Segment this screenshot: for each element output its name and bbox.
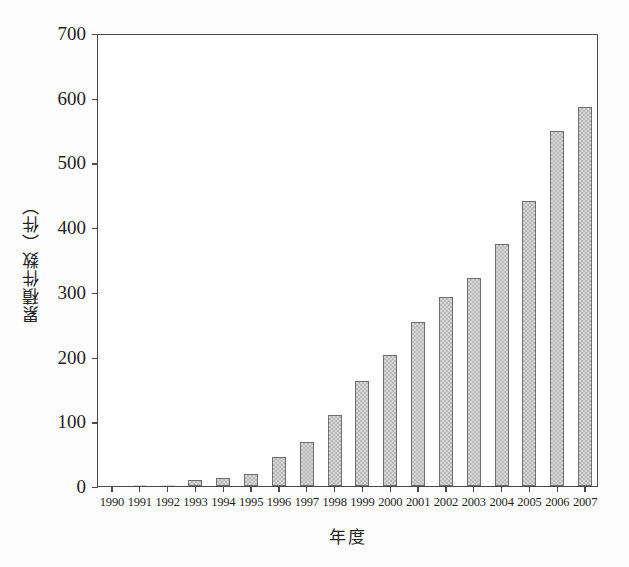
x-tick-label: 1995 [239,495,263,510]
x-tick-label: 1991 [128,495,152,510]
x-tick-mark [334,486,335,492]
x-tick-mark [278,486,279,492]
x-tick-label: 2006 [545,495,569,510]
bar-1997 [300,442,314,486]
y-tick-mark [92,293,98,294]
bar-1998 [328,415,342,486]
x-tick-mark [557,486,558,492]
x-tick-label: 1998 [322,495,346,510]
y-tick-label: 600 [58,88,87,110]
x-tick-mark [306,486,307,492]
y-tick-label: 0 [77,476,87,498]
bar-1999 [355,381,369,486]
bar-2007 [578,107,592,486]
bar-1994 [216,478,230,486]
x-tick-mark [167,486,168,492]
x-tick-mark [195,486,196,492]
y-tick-label: 500 [58,152,87,174]
x-tick-label: 2002 [434,495,458,510]
y-tick-label: 700 [58,23,87,45]
y-tick-mark [92,99,98,100]
bar-2004 [495,244,509,486]
bar-2006 [550,131,564,486]
x-tick-label: 2004 [489,495,513,510]
x-tick-label: 1994 [211,495,235,510]
bar-2005 [522,201,536,486]
x-tick-mark [250,486,251,492]
x-tick-mark [473,486,474,492]
plot-area: 0100200300400500600700 19901991199219931… [97,34,598,487]
y-tick-mark [92,422,98,423]
bar-2001 [411,322,425,486]
x-tick-mark [139,486,140,492]
bar-1996 [272,457,286,486]
x-tick-mark [445,486,446,492]
y-tick-label: 200 [58,347,87,369]
y-axis-title: 累積件数（件） [16,150,48,370]
y-tick-label: 400 [58,217,87,239]
x-tick-label: 1997 [295,495,319,510]
x-tick-label: 2000 [378,495,402,510]
x-tick-mark [362,486,363,492]
y-tick-label: 300 [58,282,87,304]
bar-2002 [439,297,453,486]
x-tick-mark [417,486,418,492]
y-tick-mark [92,34,98,35]
x-tick-mark [584,486,585,492]
x-tick-label: 1990 [100,495,124,510]
y-tick-mark [92,358,98,359]
bar-1995 [244,474,258,486]
x-tick-mark [390,486,391,492]
x-tick-mark [501,486,502,492]
y-tick-label: 100 [58,411,87,433]
y-tick-mark [92,228,98,229]
x-tick-label: 2005 [517,495,541,510]
x-tick-label: 2003 [462,495,486,510]
y-tick-mark [92,163,98,164]
x-tick-label: 2001 [406,495,430,510]
x-tick-label: 1996 [267,495,291,510]
bar-2000 [383,355,397,486]
x-tick-mark [223,486,224,492]
y-tick-mark [92,487,98,488]
x-tick-label: 1993 [183,495,207,510]
x-tick-label: 2007 [573,495,597,510]
bar-2003 [467,278,481,486]
chart-figure: 累積件数（件） 0100200300400500600700 199019911… [0,0,629,567]
x-tick-label: 1992 [155,495,179,510]
x-tick-label: 1999 [350,495,374,510]
x-tick-mark [529,486,530,492]
x-axis-title: 年度 [97,523,598,548]
x-tick-mark [111,486,112,492]
